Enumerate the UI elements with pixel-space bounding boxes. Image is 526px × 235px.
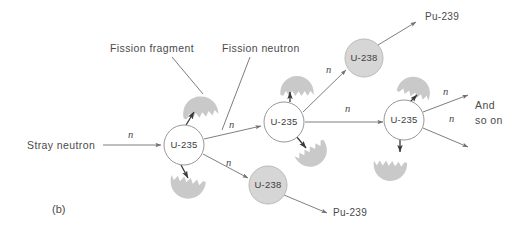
nucleus-u235-2: U-235: [264, 102, 304, 142]
neutron-symbol: n: [449, 113, 454, 124]
nucleus-label: U-235: [271, 116, 298, 127]
neutron-symbol: n: [326, 64, 331, 75]
nucleus-u238-top: U-238: [345, 39, 383, 77]
fission-fragment-shape: [181, 94, 219, 120]
panel-label: (b): [52, 203, 65, 215]
neutron-arrow: [423, 95, 468, 112]
fission-chain-diagram: U-235U-235U-235U-238U-238 nnnnnnn Pu-239…: [0, 0, 526, 235]
label-and-so-on-line2: so on: [475, 114, 503, 126]
fragment-arrow: [181, 165, 188, 178]
figure-panel: U-235U-235U-235U-238U-238 nnnnnnn Pu-239…: [0, 0, 526, 235]
label-fission-neutron: Fission neutron: [222, 42, 300, 54]
neutron-arrow: [423, 128, 468, 147]
fission-fragment-shape: [294, 139, 333, 173]
nucleus-label: U-238: [351, 52, 378, 63]
fragment-arrow: [296, 136, 306, 148]
neutron-arrow: [378, 22, 416, 45]
product-label-pu-239-top: Pu-239: [425, 11, 459, 22]
nucleus-label: U-238: [255, 179, 282, 190]
callout-leader-line: [222, 57, 250, 130]
neutron-symbol: n: [229, 119, 234, 130]
neutron-symbol: n: [226, 157, 231, 168]
label-stray-neutron: Stray neutron: [27, 139, 95, 151]
label-fission-fragment: Fission fragment: [110, 42, 194, 54]
nucleus-u235-1: U-235: [164, 125, 204, 165]
fission-fragment-shape: [280, 76, 313, 96]
fission-fragment-shape: [167, 174, 206, 202]
product-label-pu-239-bottom: Pu-239: [333, 207, 367, 218]
neutron-symbol: n: [443, 86, 448, 97]
neutron-arrow: [284, 195, 327, 213]
nucleus-u238-bottom: U-238: [249, 166, 287, 204]
callout-leader-line: [172, 57, 203, 94]
nucleus-label: U-235: [171, 139, 198, 150]
leader-lines-group: [172, 57, 250, 130]
neutron-symbol: n: [345, 103, 350, 114]
neutron-symbol: n: [128, 129, 133, 140]
nucleus-u235-3: U-235: [384, 100, 424, 140]
label-and-so-on-line1: And: [475, 99, 495, 111]
nucleus-label: U-235: [391, 114, 418, 125]
fission-fragment-shape: [373, 160, 408, 182]
